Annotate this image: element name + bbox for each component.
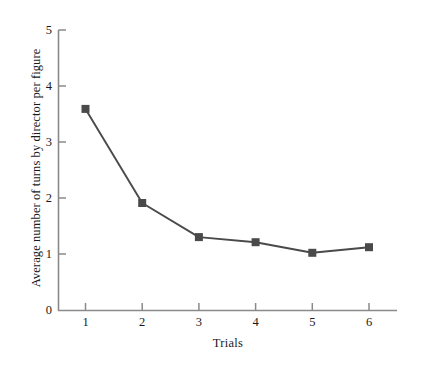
data-point-markers [82,105,374,257]
x-axis-ticks [86,303,370,311]
data-line [86,109,370,253]
data-point-marker [195,233,203,241]
data-point-marker [308,249,316,257]
x-tick-label: 4 [247,316,265,328]
data-point-marker [138,199,146,207]
data-point-marker [82,105,90,113]
y-axis-title: Average number of turns by director per … [22,18,50,318]
x-tick-label: 6 [360,316,378,328]
x-tick-label: 3 [190,316,208,328]
x-tick-label: 5 [303,316,321,328]
data-point-marker [365,243,373,251]
x-tick-label: 1 [77,316,95,328]
data-point-marker [252,238,260,246]
y-axis-ticks [59,30,67,254]
x-axis-title: Trials [58,336,398,351]
x-tick-label: 2 [133,316,151,328]
chart-figure: 5 4 3 2 1 0 1 2 3 4 5 6 Average number o… [0,0,425,377]
